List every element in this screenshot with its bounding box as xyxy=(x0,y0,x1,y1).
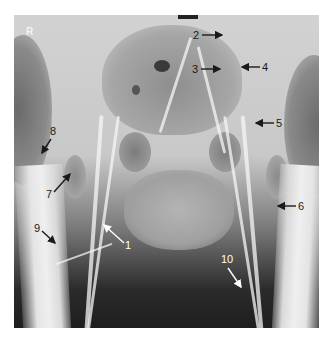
arrow-7-icon xyxy=(54,174,70,192)
arrow-1-icon xyxy=(104,225,124,243)
annotation-label-3: 3 xyxy=(192,64,198,75)
annotation-label-1: 1 xyxy=(125,240,131,251)
annotation-label-7: 7 xyxy=(46,189,52,200)
annotation-arrows xyxy=(0,0,330,338)
arrow-9-icon xyxy=(42,231,55,243)
arrow-8-icon xyxy=(42,139,51,153)
annotation-label-10: 10 xyxy=(221,254,233,265)
annotation-label-4: 4 xyxy=(262,62,268,73)
annotation-label-2: 2 xyxy=(193,30,199,41)
arrow-10-icon xyxy=(228,268,241,287)
annotation-label-6: 6 xyxy=(298,201,304,212)
annotation-label-8: 8 xyxy=(50,126,56,137)
annotation-label-5: 5 xyxy=(276,118,282,129)
annotation-label-9: 9 xyxy=(34,223,40,234)
